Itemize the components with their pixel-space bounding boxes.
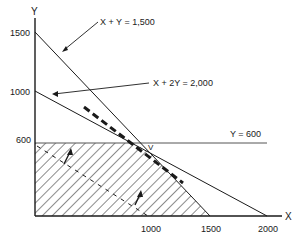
y-tick-1500: 1500 xyxy=(10,28,30,38)
label-x-plus-y-1500: X + Y = 1,500 xyxy=(100,17,155,27)
pointer-arrow-icon xyxy=(52,83,149,97)
y-tick-1000: 1000 xyxy=(10,87,30,97)
vertex-label: V xyxy=(148,143,154,152)
x-axis-label: X xyxy=(285,211,292,222)
x-tick-1000: 1000 xyxy=(141,224,161,234)
y-tick-600: 600 xyxy=(16,135,31,145)
pointer-arrow-icon xyxy=(62,22,98,52)
label-x-plus-2y-2000: X + 2Y = 2,000 xyxy=(153,78,213,88)
feasible-region xyxy=(35,143,210,216)
x-tick-2000: 2000 xyxy=(258,224,278,234)
x-tick-1500: 1500 xyxy=(201,224,221,234)
lp-diagram: Y X 1500 1000 600 1000 1500 2000 X + Y =… xyxy=(0,0,296,241)
label-y-600: Y = 600 xyxy=(230,129,261,139)
y-axis-label: Y xyxy=(31,6,38,17)
